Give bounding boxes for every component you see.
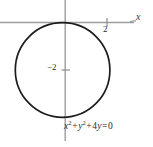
equation-term-4y-var: y <box>97 121 101 131</box>
equation-caption: x2+y2+4y=0 <box>64 120 113 132</box>
y-tick-label-negative-2: −2 <box>47 63 57 72</box>
x-tick-label-2: 2 <box>103 25 108 34</box>
x-axis-label: x <box>136 12 140 22</box>
equation-right-hand-side: 0 <box>108 121 113 131</box>
math-figure-circle-graph: x 2 −2 x2+y2+4y=0 <box>0 0 153 147</box>
